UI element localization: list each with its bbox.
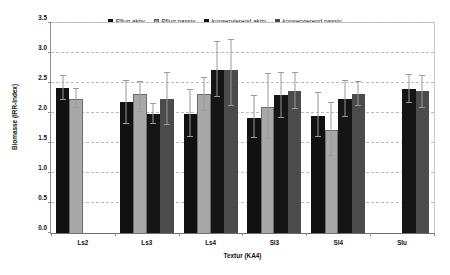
error-bar-cap-upper (150, 103, 156, 104)
error-bar-cap-upper (406, 74, 412, 75)
bar-slot (288, 23, 302, 233)
error-bar-cap-upper (201, 77, 207, 78)
error-bar (267, 74, 268, 139)
bar-group-ls2: Ls2 (51, 23, 115, 233)
error-bar (126, 81, 127, 125)
bar[interactable] (288, 91, 302, 233)
error-bar (408, 75, 409, 103)
bar[interactable] (56, 88, 70, 233)
bar-slots (242, 23, 306, 233)
bar-slot (83, 23, 97, 233)
error-bar-cap-upper (164, 72, 170, 73)
bar[interactable] (197, 94, 211, 233)
bar-slot (389, 23, 403, 233)
x-tick-mark (306, 233, 307, 236)
error-bar-cap-lower (123, 123, 129, 124)
bar-slot (56, 23, 70, 233)
bar-slot (416, 23, 430, 233)
x-tick-mark (242, 233, 243, 236)
error-bar (230, 40, 231, 106)
error-bar-cap-upper (342, 80, 348, 81)
y-tick-label: 3.5 (38, 13, 47, 20)
error-bar-cap-lower (214, 96, 220, 97)
error-bar-cap-lower (150, 123, 156, 124)
bar-slot (261, 23, 275, 233)
error-bar-cap-lower (137, 111, 143, 112)
error-bar-cap-lower (292, 108, 298, 109)
error-bar-cap-lower (60, 99, 66, 100)
bar-slots (179, 23, 243, 233)
bar[interactable] (133, 94, 147, 233)
error-bar-cap-lower (228, 105, 234, 106)
x-tick-mark (370, 233, 371, 236)
x-axis-title: Textur (KA4) (50, 252, 435, 259)
y-tick-label: 0.5 (38, 193, 47, 200)
error-bar-cap-lower (201, 110, 207, 111)
error-bar (139, 82, 140, 113)
x-tick-label-slu: Slu (370, 239, 434, 246)
error-bar-cap-upper (187, 89, 193, 90)
bar[interactable] (69, 99, 83, 233)
error-bar-cap-upper (315, 92, 321, 93)
error-bar (294, 73, 295, 109)
y-axis-title: Biomasse (IRR-Index) (9, 2, 21, 232)
error-bar (203, 78, 204, 110)
bar-slots (51, 23, 115, 233)
error-bar-cap-upper (73, 88, 79, 89)
error-bar-cap-lower (315, 136, 321, 137)
y-tick-label: 1.0 (38, 163, 47, 170)
x-tick-label-ls2: Ls2 (51, 239, 115, 246)
x-tick-mark (51, 233, 52, 236)
error-bar-cap-lower (328, 155, 334, 156)
error-bar (166, 73, 167, 125)
error-bar (217, 42, 218, 97)
bar-group-sl3: Sl3 (242, 23, 306, 233)
bar-group-slu: Slu (370, 23, 434, 233)
bar-slot (120, 23, 134, 233)
chart-figure: Pflug aktiv Pflug passiv konservierend a… (0, 0, 450, 275)
error-bar (344, 81, 345, 116)
bar-group-ls3: Ls3 (115, 23, 179, 233)
bar[interactable] (402, 89, 416, 233)
plot-area: 0.00.51.01.52.02.53.03.5 Ls2Ls3Ls4Sl3Sl4… (50, 22, 435, 234)
error-bar (153, 104, 154, 124)
bar-slot (224, 23, 238, 233)
bar-slot (375, 23, 389, 233)
bar[interactable] (352, 94, 366, 233)
error-bar-cap-upper (60, 75, 66, 76)
error-bar (317, 93, 318, 137)
error-bar-cap-lower (342, 116, 348, 117)
bar-slot (197, 23, 211, 233)
error-bar-cap-lower (355, 105, 361, 106)
bar[interactable] (147, 114, 161, 233)
error-bar-cap-upper (419, 75, 425, 76)
error-bar-cap-lower (419, 107, 425, 108)
bar-slot (96, 23, 110, 233)
error-bar (331, 103, 332, 155)
x-tick-mark (434, 233, 435, 236)
bar-slot (352, 23, 366, 233)
error-bar-cap-upper (228, 39, 234, 40)
error-bar-cap-lower (406, 102, 412, 103)
bar-slots (370, 23, 434, 233)
x-tick-label-ls4: Ls4 (179, 239, 243, 246)
error-bar-cap-upper (355, 81, 361, 82)
error-bar (358, 82, 359, 107)
bar-group-sl4: Sl4 (306, 23, 370, 233)
error-bar (254, 96, 255, 138)
bar-slot (402, 23, 416, 233)
bar-slot (184, 23, 198, 233)
bar-slot (69, 23, 83, 233)
x-tick-mark (115, 233, 116, 236)
bar-slot (311, 23, 325, 233)
error-bar-cap-upper (265, 73, 271, 74)
x-tick-label-sl3: Sl3 (242, 239, 306, 246)
bar-slot (211, 23, 225, 233)
error-bar (76, 89, 77, 108)
bar[interactable] (416, 91, 430, 233)
error-bar (281, 73, 282, 118)
bar-slot (247, 23, 261, 233)
error-bar-cap-upper (251, 95, 257, 96)
bar[interactable] (338, 99, 352, 233)
error-bar-cap-upper (292, 72, 298, 73)
